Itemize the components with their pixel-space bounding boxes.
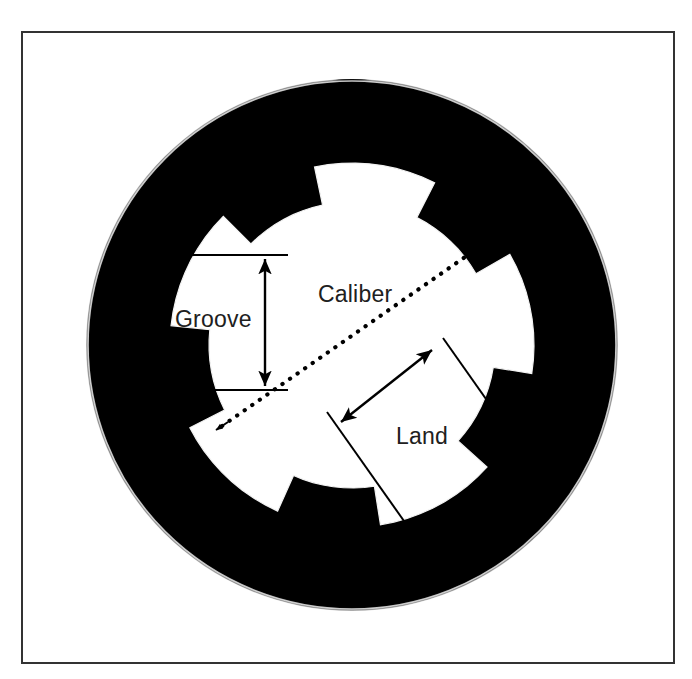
figure-canvas: Groove Caliber Land: [0, 0, 692, 679]
land-label: Land: [396, 423, 448, 449]
caliber-label: Caliber: [318, 281, 392, 307]
groove-label: Groove: [175, 306, 252, 332]
barrel-cross-section-diagram: Groove Caliber Land: [0, 0, 692, 679]
